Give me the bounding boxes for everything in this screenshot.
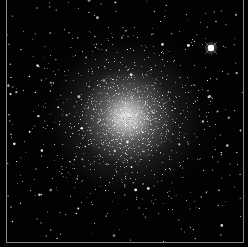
- frame-right-border: [243, 0, 244, 243]
- star-cluster-image: [0, 0, 248, 247]
- bright-foreground-star: [0, 0, 248, 247]
- frame-bottom-border: [6, 242, 244, 243]
- frame-left-border: [6, 0, 7, 243]
